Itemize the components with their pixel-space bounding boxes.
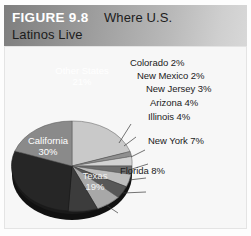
callout-label-arizona: Arizona 4%	[150, 97, 198, 108]
callout-label-new-jersey: New Jersey 3%	[146, 83, 211, 94]
slice-label-texas-value: 19%	[85, 181, 104, 192]
figure-number: FIGURE 9.8	[12, 10, 89, 25]
leader-line-colorado	[119, 124, 131, 143]
slice-label-california-name: California	[28, 135, 68, 146]
figure-title-line1: Where U.S.	[104, 10, 172, 25]
slice-label-california: California 30%	[13, 135, 83, 157]
callout-label-new-york: New York 7%	[148, 135, 204, 146]
slice-label-other-states: Other States 21%	[45, 65, 119, 87]
header-first-line: FIGURE 9.8 Where U.S.	[12, 8, 247, 26]
callout-label-florida: Florida 8%	[120, 165, 165, 176]
slice-label-other-states-value: 21%	[72, 76, 91, 87]
figure-header: FIGURE 9.8 Where U.S. Latinos Live	[4, 5, 247, 46]
leader-line-new-jersey	[131, 150, 145, 157]
callout-label-colorado: Colorado 2%	[130, 57, 184, 68]
slice-label-texas: Texas 19%	[67, 170, 123, 192]
leader-line-new-mexico	[124, 137, 136, 146]
slice-label-texas-name: Texas	[83, 170, 108, 181]
slice-label-california-value: 30%	[38, 146, 57, 157]
callout-label-new-mexico: New Mexico 2%	[137, 70, 204, 81]
callout-label-illinois: Illinois 4%	[148, 111, 190, 122]
figure-container: FIGURE 9.8 Where U.S. Latinos Live	[0, 0, 251, 236]
chart-panel: Other States 21% California 30% Texas 19…	[4, 46, 247, 229]
slice-label-other-states-name: Other States	[55, 65, 108, 76]
figure-title-line2: Latinos Live	[12, 26, 247, 43]
